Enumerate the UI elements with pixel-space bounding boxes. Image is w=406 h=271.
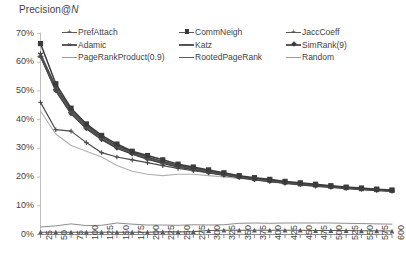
- x-axis-tick-label: 75: [75, 229, 85, 239]
- legend-item-label: PrefAttach: [78, 27, 118, 37]
- legend-item-pagerankproduct-0-9[interactable]: PageRankProduct(0.9): [62, 51, 179, 64]
- legend-item-label: Adamic: [78, 40, 106, 50]
- legend-item-label: SimRank(9): [302, 40, 347, 50]
- legend-swatch-icon: [179, 53, 194, 62]
- x-axis-tick-label: 225: [166, 224, 176, 239]
- y-axis-tick-label: 30%: [2, 142, 34, 152]
- legend-item-jacccoeff[interactable]: JaccCoeff: [286, 26, 398, 39]
- x-axis-tick-label: 100: [90, 224, 100, 239]
- legend-item-label: JaccCoeff: [302, 27, 340, 37]
- legend-item-commneigh[interactable]: CommNeigh: [179, 26, 286, 39]
- legend-swatch-icon: [62, 28, 77, 37]
- legend-swatch-icon: [286, 40, 301, 49]
- y-axis-tick-label: 50%: [2, 85, 34, 95]
- y-axis-tick-label: 10%: [2, 200, 34, 210]
- x-axis-tick-label: 250: [182, 224, 192, 239]
- x-axis-tick-label: 500: [334, 224, 344, 239]
- y-tick-marks: [37, 34, 41, 235]
- x-axis-tick-label: 50: [59, 229, 69, 239]
- series-prefattach: [38, 100, 394, 192]
- legend-item-prefattach[interactable]: PrefAttach: [62, 26, 179, 39]
- x-axis-tick-label: 525: [350, 224, 360, 239]
- x-axis-tick-label: 450: [304, 224, 314, 239]
- y-axis-tick-label: 20%: [2, 171, 34, 181]
- legend-item-rootedpagerank[interactable]: RootedPageRank: [179, 51, 286, 64]
- legend-item-label: PageRankProduct(0.9): [78, 52, 164, 62]
- legend-item-label: CommNeigh: [195, 27, 242, 37]
- y-axis-tick-label: 40%: [2, 114, 34, 124]
- x-axis-tick-label: 375: [258, 224, 268, 239]
- x-axis-tick-label: 425: [289, 224, 299, 239]
- y-axis-tick-label: 70%: [2, 28, 34, 38]
- x-axis-tick-label: 150: [121, 224, 131, 239]
- x-axis-tick-label: 175: [136, 224, 146, 239]
- x-axis-tick-label: 125: [105, 224, 115, 239]
- x-axis-tick-label: 200: [151, 224, 161, 239]
- x-axis-tick-label: 575: [380, 224, 390, 239]
- series-pagerankproduct-0-9: [41, 111, 393, 190]
- legend-item-label: Random: [302, 52, 334, 62]
- x-axis-tick-label: 400: [273, 224, 283, 239]
- legend-item-label: RootedPageRank: [195, 52, 262, 62]
- y-axis-tick-label: 0%: [2, 229, 34, 239]
- x-axis-tick-label: 550: [365, 224, 375, 239]
- legend-item-random[interactable]: Random: [286, 51, 398, 64]
- legend-item-katz[interactable]: Katz: [179, 39, 286, 52]
- x-axis-tick-label: 25: [44, 229, 54, 239]
- x-axis-tick-label: 600: [396, 224, 406, 239]
- legend-swatch-icon: [179, 28, 194, 37]
- legend-swatch-icon: [286, 53, 301, 62]
- legend-item-label: Katz: [195, 40, 212, 50]
- legend-swatch-icon: [286, 28, 301, 37]
- legend-swatch-icon: [179, 40, 194, 49]
- legend-swatch-icon: [62, 40, 77, 49]
- x-axis-tick-label: 275: [197, 224, 207, 239]
- x-axis-tick-label: 350: [243, 224, 253, 239]
- x-axis-tick-label: 475: [319, 224, 329, 239]
- legend-swatch-icon: [62, 53, 77, 62]
- chart-legend: PrefAttachCommNeighJaccCoeffAdamicKatzSi…: [62, 26, 398, 64]
- x-axis-tick-label: 300: [212, 224, 222, 239]
- legend-item-simrank-9[interactable]: SimRank(9): [286, 39, 398, 52]
- y-axis-tick-label: 60%: [2, 56, 34, 66]
- legend-item-adamic[interactable]: Adamic: [62, 39, 179, 52]
- x-axis-tick-label: 325: [227, 224, 237, 239]
